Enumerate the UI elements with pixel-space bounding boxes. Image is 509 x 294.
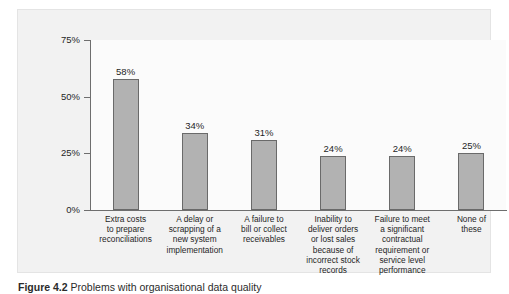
figure-caption: Figure 4.2 Problems with organisational … [18,281,488,294]
x-axis-category-line: service level [368,255,437,265]
bar-group: 24% [320,40,346,210]
x-axis-category-label: A delay orscrapping of anew systemimplem… [160,214,229,255]
figure-caption-number: Figure 4.2 [18,281,68,293]
x-axis-labels: Extra coststo preparereconciliationsA de… [91,214,506,282]
x-axis-category-line: A delay or [160,214,229,224]
bar-group: 31% [251,40,277,210]
bar-group: 34% [182,40,208,210]
bar-group: 25% [458,40,484,210]
x-axis-category-line: Inability to [299,214,368,224]
x-axis-category-line: contractual [368,234,437,244]
x-axis-category-line: because of [299,245,368,255]
x-axis-category-line: requirement or [368,245,437,255]
x-axis-category-line: performance [368,265,437,275]
bar-series: 58%34%31%24%24%25% [91,40,506,210]
bar [458,153,484,210]
x-axis-category-line: None of [437,214,506,224]
bar-value-label: 58% [97,66,155,77]
bar-group: 24% [389,40,415,210]
figure-caption-text: Problems with organisational data qualit… [71,281,262,293]
x-axis-category-line: bill or collect [229,224,298,234]
x-axis-category-label: Failure to meeta significantcontractualr… [368,214,437,275]
x-axis-category-label: Inability todeliver ordersor lost salesb… [299,214,368,275]
chart-frame: 0%25%50%75% 58%34%31%24%24%25% Extra cos… [17,9,491,273]
x-axis-category-line: records [299,265,368,275]
bar-value-label: 31% [235,127,293,138]
x-axis-category-line: these [437,224,506,234]
bar-value-label: 24% [373,143,431,154]
x-axis-line [90,210,507,211]
y-axis-tick-label: 0% [40,205,80,215]
x-axis-category-line: deliver orders [299,224,368,234]
bar-value-label: 34% [166,120,224,131]
x-axis-category-line: or lost sales [299,234,368,244]
x-axis-category-label: None ofthese [437,214,506,234]
bar-value-label: 25% [442,140,500,151]
bar [320,156,346,210]
y-axis-tick [84,210,90,211]
bar [113,79,139,210]
y-axis-tick-label: 50% [40,92,80,102]
x-axis-category-line: A failure to [229,214,298,224]
x-axis-category-label: A failure tobill or collectreceivables [229,214,298,245]
x-axis-category-line: to prepare [91,224,160,234]
y-axis-tick-label: 25% [40,148,80,158]
y-axis-tick [84,97,90,98]
y-axis-tick-label: 75% [40,35,80,45]
x-axis-category-line: reconciliations [91,234,160,244]
x-axis-category-line: a significant [368,224,437,234]
bar [251,140,277,210]
y-axis-tick [84,153,90,154]
x-axis-category-line: incorrect stock [299,255,368,265]
x-axis-category-line: implementation [160,245,229,255]
bar-value-label: 24% [304,143,362,154]
x-axis-category-line: new system [160,234,229,244]
bar [389,156,415,210]
x-axis-category-line: scrapping of a [160,224,229,234]
x-axis-category-line: Failure to meet [368,214,437,224]
y-axis-tick [84,40,90,41]
x-axis-category-line: receivables [229,234,298,244]
x-axis-category-label: Extra coststo preparereconciliations [91,214,160,245]
bar-group: 58% [113,40,139,210]
bar [182,133,208,210]
x-axis-category-line: Extra costs [91,214,160,224]
